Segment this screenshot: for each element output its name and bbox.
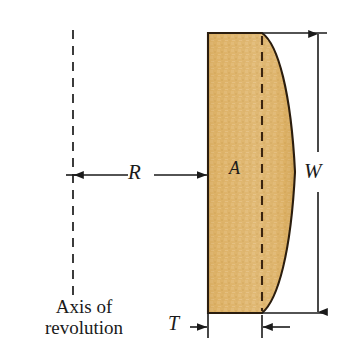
axis-of-revolution-label: Axis of revolution [29, 296, 139, 339]
axis-label-line2: revolution [29, 317, 139, 338]
area-label: A [229, 158, 240, 179]
width-label: W [304, 159, 322, 184]
radius-label: R [128, 160, 141, 185]
thickness-label: T [168, 312, 179, 335]
axis-label-line1: Axis of [56, 296, 112, 317]
